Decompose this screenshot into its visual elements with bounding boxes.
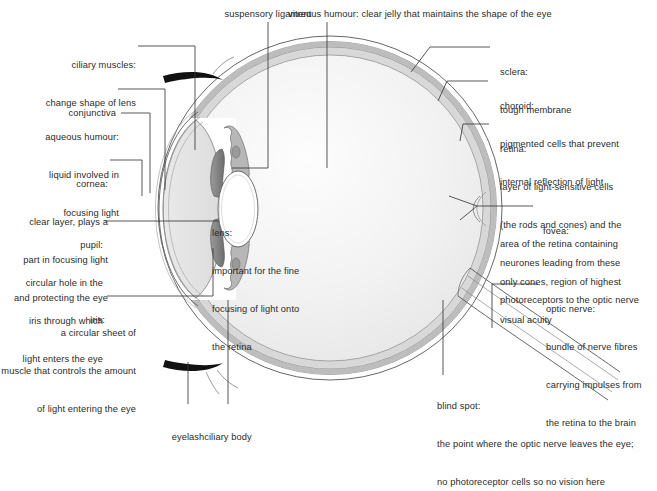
- ciliary-muscle-upper: [232, 146, 240, 158]
- label-ciliary-body: ciliary body: [190, 406, 266, 469]
- label-lens: lens: important for the fine focusing of…: [212, 202, 332, 378]
- label-vitreous-humour: vitreous humour: clear jelly that mainta…: [288, 8, 648, 21]
- label-blind-spot: blind spot: the point where the optic ne…: [437, 375, 657, 491]
- label-iris-description: a circular sheet of muscle that controls…: [0, 302, 136, 441]
